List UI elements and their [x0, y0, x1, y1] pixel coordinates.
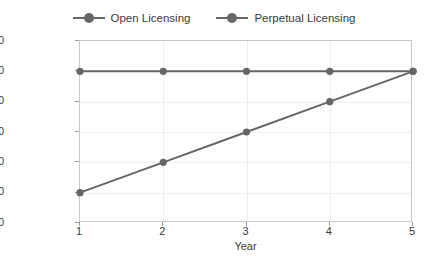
y-tick-label: $0	[0, 217, 4, 228]
chart-legend: Open Licensing Perpetual Licensing	[0, 12, 428, 24]
x-tick-label: 5	[392, 225, 428, 237]
data-point-marker[interactable]	[243, 68, 250, 75]
legend-label-open-licensing: Open Licensing	[111, 12, 191, 24]
legend-marker-icon	[73, 13, 105, 24]
y-tick-label: $300,000	[0, 35, 4, 46]
legend-entry-perpetual-licensing[interactable]: Perpetual Licensing	[216, 12, 355, 24]
y-tick-label: $100,000	[0, 156, 4, 167]
series-layer	[80, 41, 413, 223]
legend-label-perpetual-licensing: Perpetual Licensing	[254, 12, 355, 24]
y-tick-label: $250,000	[0, 65, 4, 76]
y-tick-label: $200,000	[0, 95, 4, 106]
data-point-marker[interactable]	[76, 189, 83, 196]
data-point-marker[interactable]	[160, 159, 167, 166]
line-chart: Open Licensing Perpetual Licensing Total…	[0, 0, 428, 259]
x-tick-label: 4	[309, 225, 349, 237]
data-point-marker[interactable]	[326, 68, 333, 75]
y-tick-label: $50,000	[0, 186, 4, 197]
data-point-marker[interactable]	[409, 68, 416, 75]
x-tick-label: 3	[226, 225, 266, 237]
x-tick-label: 2	[142, 225, 182, 237]
plot-area	[79, 40, 412, 222]
data-point-marker[interactable]	[243, 128, 250, 135]
y-tick-label: $150,000	[0, 126, 4, 137]
data-point-marker[interactable]	[326, 98, 333, 105]
x-axis-title: Year	[79, 240, 412, 253]
legend-marker-icon	[216, 13, 248, 24]
x-tick-label: 1	[59, 225, 99, 237]
legend-entry-open-licensing[interactable]: Open Licensing	[73, 12, 191, 24]
legend-dot-icon	[84, 13, 94, 23]
data-point-marker[interactable]	[76, 68, 83, 75]
legend-dot-icon	[227, 13, 237, 23]
data-point-marker[interactable]	[160, 68, 167, 75]
